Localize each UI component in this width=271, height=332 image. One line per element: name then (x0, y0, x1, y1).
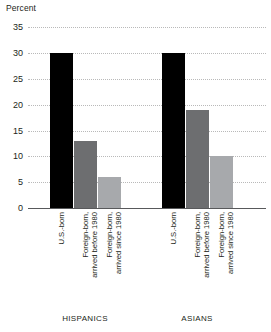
y-tick-label: 30 (0, 48, 23, 58)
group-label-hispanics: HISPANICS (62, 314, 108, 323)
y-tick-label: 15 (0, 126, 23, 136)
bar-hispanics-foreign-before-1980 (74, 141, 97, 208)
y-tick-label: 25 (0, 74, 23, 84)
category-label-hispanics-foreign-before-1980: Foreign-born, arrived before 1980 (81, 212, 99, 308)
y-tick-label: 10 (0, 151, 23, 161)
bar-hispanics-us-born (50, 53, 73, 208)
category-label-asians-us-born: U.S.-born (169, 212, 178, 308)
axis-baseline (28, 208, 266, 209)
category-label-asians-foreign-since-1980: Foreign-born, arrived since 1980 (217, 212, 235, 308)
bar-chart: Percent 35 30 25 20 15 10 5 0 U.S.-born … (0, 0, 271, 332)
bar-asians-foreign-since-1980 (210, 156, 233, 208)
group-label-asians: ASIANS (181, 314, 212, 323)
category-label-asians-foreign-before-1980: Foreign-born, arrived before 1980 (193, 212, 211, 308)
category-label-hispanics-us-born: U.S.-born (57, 212, 66, 308)
gridline-35 (28, 27, 266, 28)
y-tick-label: 0 (0, 203, 23, 213)
y-tick-label: 35 (0, 22, 23, 32)
bar-asians-foreign-before-1980 (186, 110, 209, 208)
bar-hispanics-foreign-since-1980 (98, 177, 121, 208)
y-tick-label: 20 (0, 100, 23, 110)
bar-asians-us-born (162, 53, 185, 208)
category-label-hispanics-foreign-since-1980: Foreign-born, arrived since 1980 (105, 212, 123, 308)
plot-area: 35 30 25 20 15 10 5 0 U.S.-born Foreign-… (0, 0, 271, 332)
y-tick-label: 5 (0, 177, 23, 187)
